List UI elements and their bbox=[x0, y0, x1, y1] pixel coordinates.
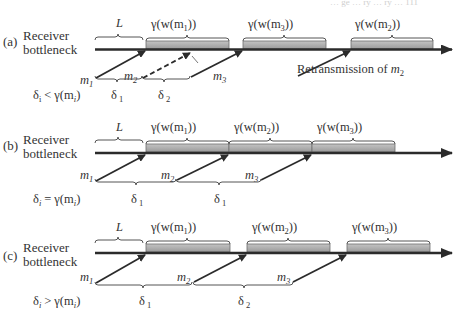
block-brace bbox=[229, 138, 312, 144]
panel-b: (b) Receiver bottleneck L γ(w(m1)) γ(w(m… bbox=[3, 120, 452, 208]
panel-a: (a) Receiver bottleneck L γ(w(m1)) γ(w(m… bbox=[3, 16, 452, 104]
bottleneck-block bbox=[229, 144, 312, 152]
condition-label: δi>γ(mi) bbox=[33, 294, 80, 310]
row-label-receiver: Receiver bbox=[23, 132, 70, 147]
bottleneck-block bbox=[312, 144, 395, 152]
bottleneck-block bbox=[247, 244, 330, 252]
interval-label: δ1 bbox=[111, 88, 123, 104]
row-label-receiver: Receiver bbox=[23, 28, 70, 43]
bottleneck-block bbox=[146, 41, 229, 49]
message-label-m3: m3 bbox=[213, 69, 226, 85]
message-label-m1: m1 bbox=[80, 168, 93, 184]
block-1: γ(w(m1)) bbox=[146, 220, 230, 252]
block-label: γ(w(m3)) bbox=[247, 17, 293, 33]
panel-tag: (a) bbox=[3, 34, 17, 49]
condition-label: δi<γ(mi) bbox=[33, 88, 80, 104]
block-label: γ(w(m1)) bbox=[150, 17, 196, 33]
message-arrow-m1 bbox=[96, 155, 145, 181]
message-label-m1: m1 bbox=[80, 270, 93, 286]
row-label-bottleneck: bottleneck bbox=[23, 42, 78, 57]
row-label-bottleneck: bottleneck bbox=[23, 146, 78, 161]
message-label-m2: m2 bbox=[177, 270, 191, 286]
message-arrow-m1 bbox=[96, 255, 145, 283]
message-arrow-m2 bbox=[194, 255, 246, 282]
block-label: γ(w(m1)) bbox=[150, 120, 196, 136]
bottleneck-block bbox=[146, 244, 230, 252]
message-arrow-m3 bbox=[293, 255, 346, 282]
interval-label: δ1 bbox=[131, 192, 143, 208]
message-arrow-m2 bbox=[177, 155, 228, 180]
block-label: γ(w(m1)) bbox=[150, 220, 196, 236]
block-brace bbox=[312, 138, 395, 144]
latency-label: L bbox=[115, 220, 123, 234]
block-2: γ(w(m2)) bbox=[229, 120, 312, 152]
block-1: γ(w(m1)) bbox=[146, 120, 229, 152]
panel-c: (c) Receiver bottleneck L γ(w(m1)) γ(w(m… bbox=[3, 220, 452, 310]
block-brace bbox=[146, 35, 229, 41]
interval-label: δ1 bbox=[214, 192, 226, 208]
bottleneck-block bbox=[146, 144, 229, 152]
message-arrow-m2-dashed bbox=[143, 53, 190, 78]
block-brace bbox=[146, 138, 229, 144]
message-label-m2: m2 bbox=[124, 69, 138, 85]
panel-tag: (b) bbox=[3, 138, 18, 153]
latency-brace bbox=[95, 34, 143, 40]
latency-brace bbox=[95, 137, 143, 143]
block-2: γ(w(m2)) bbox=[247, 220, 330, 252]
retransmission-label: Retransmission of m2 bbox=[297, 62, 404, 78]
block-brace bbox=[347, 238, 430, 244]
row-label-bottleneck: bottleneck bbox=[23, 254, 78, 269]
latency-label: L bbox=[115, 120, 123, 134]
latency-label: L bbox=[115, 16, 123, 30]
interval-label: δ1 bbox=[139, 294, 151, 310]
message-label-m1: m1 bbox=[80, 73, 93, 89]
bottleneck-block bbox=[243, 41, 326, 49]
row-label-receiver: Receiver bbox=[23, 240, 70, 255]
block-label: γ(w(m2)) bbox=[251, 220, 297, 236]
page-header-fragment: … ge … ry … ry … 111 bbox=[330, 0, 418, 7]
interval-label: δ2 bbox=[238, 294, 250, 310]
bottleneck-block bbox=[351, 41, 433, 49]
panel-tag: (c) bbox=[3, 248, 17, 263]
condition-label: δi=γ(mi) bbox=[33, 192, 80, 208]
block-label: γ(w(m2)) bbox=[233, 120, 279, 136]
block-brace bbox=[247, 238, 330, 244]
block-label: γ(w(m3)) bbox=[351, 220, 397, 236]
block-1: γ(w(m1)) bbox=[146, 17, 229, 49]
bottleneck-timing-diagram: … ge … ry … ry … 111 (a) Receiver bottle… bbox=[0, 0, 469, 320]
message-label-m3: m3 bbox=[277, 270, 290, 286]
bottleneck-block bbox=[347, 244, 430, 252]
block-label: γ(w(m3)) bbox=[316, 120, 362, 136]
block-2: γ(w(m3)) bbox=[243, 17, 326, 49]
block-label: γ(w(m2)) bbox=[354, 17, 400, 33]
interval-label: δ2 bbox=[158, 88, 170, 104]
interval-brace-delta2 bbox=[142, 76, 190, 82]
message-arrow-m1 bbox=[96, 51, 145, 78]
block-brace bbox=[146, 238, 230, 244]
loss-mark-icon bbox=[192, 56, 198, 63]
message-arrow-m3 bbox=[261, 155, 311, 180]
block-3: γ(w(m3)) bbox=[347, 220, 430, 252]
block-3: γ(w(m2)) bbox=[351, 17, 433, 49]
block-brace bbox=[351, 35, 433, 41]
block-brace bbox=[243, 35, 326, 41]
block-3: γ(w(m3)) bbox=[312, 120, 395, 152]
latency-brace bbox=[95, 237, 143, 243]
